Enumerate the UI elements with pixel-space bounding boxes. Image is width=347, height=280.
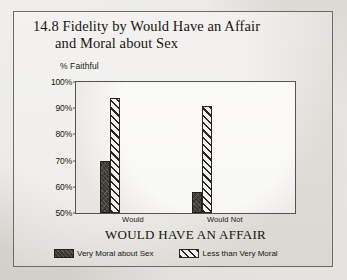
legend-swatch-solid bbox=[54, 249, 74, 258]
x-tick-label: Would Not bbox=[192, 215, 257, 224]
x-axis-title: WOULD HAVE AN AFFAIR bbox=[75, 227, 296, 243]
figure-frame: 14.8 Fidelity by Would Have an Affair an… bbox=[13, 11, 333, 267]
y-tick-mark bbox=[73, 82, 76, 83]
chart-title: 14.8 Fidelity by Would Have an Affair an… bbox=[33, 18, 319, 52]
y-tick-label: 100% bbox=[51, 77, 72, 87]
bar-less-than-very-moral bbox=[202, 106, 212, 213]
x-tick-label: Would bbox=[100, 215, 165, 224]
y-axis-label: % Faithful bbox=[60, 61, 99, 71]
y-tick-mark bbox=[73, 134, 76, 135]
bar-very-moral bbox=[192, 192, 202, 213]
legend-label: Very Moral about Sex bbox=[77, 249, 153, 258]
y-tick-mark bbox=[73, 213, 76, 214]
legend-item: Very Moral about Sex bbox=[54, 249, 153, 258]
y-tick-label: 80% bbox=[56, 129, 72, 139]
y-tick-mark bbox=[73, 186, 76, 187]
legend-swatch-hatched bbox=[179, 249, 199, 258]
y-tick-mark bbox=[73, 160, 76, 161]
chart-title-line-1: 14.8 Fidelity by Would Have an Affair bbox=[33, 18, 260, 34]
bar-group: Would Not bbox=[192, 82, 257, 213]
legend-item: Less than Very Moral bbox=[179, 249, 277, 258]
y-tick-mark bbox=[73, 108, 76, 109]
bar-very-moral bbox=[100, 161, 110, 213]
y-tick-label: 50% bbox=[56, 208, 72, 218]
legend-label: Less than Very Moral bbox=[202, 249, 277, 258]
plot-area: 50%60%70%80%90%100% WouldWould Not bbox=[75, 81, 296, 214]
y-tick-label: 70% bbox=[56, 156, 72, 166]
bar-group: Would bbox=[100, 82, 165, 213]
bar-less-than-very-moral bbox=[110, 98, 120, 213]
chart-title-line-2: and Moral about Sex bbox=[33, 35, 319, 52]
y-tick-label: 90% bbox=[56, 103, 72, 113]
y-tick-label: 60% bbox=[56, 182, 72, 192]
chart-legend: Very Moral about SexLess than Very Moral bbox=[54, 249, 299, 258]
